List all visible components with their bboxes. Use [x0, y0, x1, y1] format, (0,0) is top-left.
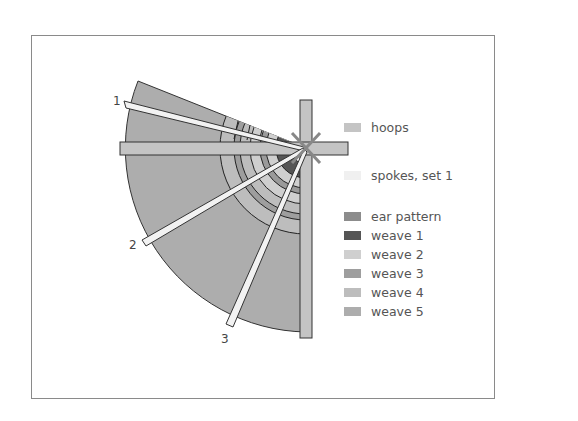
legend-label-weave-3: weave 3: [371, 266, 424, 281]
legend-label-ear-pattern: ear pattern: [371, 209, 441, 224]
legend-swatch-ear-pattern: [344, 212, 361, 221]
legend-label-hoops: hoops: [371, 120, 409, 135]
legend-label-weave-2: weave 2: [371, 247, 424, 262]
legend-swatch-weave-3: [344, 269, 361, 278]
legend-swatch-weave-1: [344, 231, 361, 240]
legend-swatch-weave-2: [344, 250, 361, 259]
basket-weave-diagram: 1 2 3 hoops spokes, set 1 ear pattern we…: [0, 0, 578, 421]
legend-swatch-weave-5: [344, 307, 361, 316]
legend: hoops spokes, set 1 ear pattern weave 1 …: [344, 120, 453, 319]
legend-swatch-weave-4: [344, 288, 361, 297]
legend-label-weave-5: weave 5: [371, 304, 424, 319]
legend-swatch-spokes: [344, 171, 361, 180]
legend-label-weave-1: weave 1: [371, 228, 424, 243]
legend-label-weave-4: weave 4: [371, 285, 424, 300]
spoke-label-2: 2: [129, 238, 137, 252]
spoke-label-1: 1: [113, 94, 121, 108]
hoop-vertical: [300, 100, 312, 338]
legend-swatch-hoops: [344, 123, 361, 132]
spoke-label-3: 3: [221, 332, 229, 346]
legend-label-spokes: spokes, set 1: [371, 168, 453, 183]
hoop-horizontal: [120, 142, 348, 155]
